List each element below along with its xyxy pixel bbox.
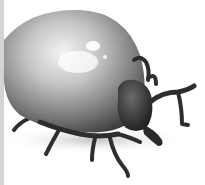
body-specular xyxy=(86,41,100,51)
tick-head xyxy=(118,80,153,131)
body-highlight xyxy=(58,51,98,73)
tick-illustration xyxy=(0,0,205,185)
